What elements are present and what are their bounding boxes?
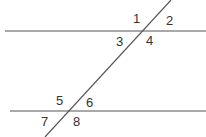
angle-label-7: 7 [41, 114, 48, 129]
angle-label-2: 2 [166, 13, 173, 28]
angle-label-4: 4 [146, 33, 153, 48]
angle-label-3: 3 [116, 34, 123, 49]
angle-label-5: 5 [56, 93, 63, 108]
angle-label-6: 6 [86, 95, 93, 110]
angle-label-1: 1 [133, 11, 140, 26]
parallel-lines-diagram: 1 2 3 4 5 6 7 8 [0, 0, 206, 137]
angle-label-8: 8 [73, 114, 80, 129]
transversal-line [45, 0, 171, 137]
